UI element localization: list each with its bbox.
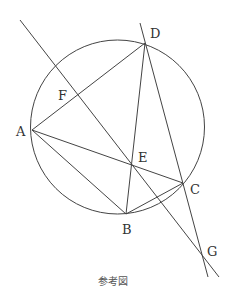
- line-through-F-E: [20, 20, 219, 277]
- label-B: B: [122, 222, 132, 237]
- segment-BC: [126, 183, 183, 214]
- label-D: D: [150, 26, 160, 41]
- segment-AC: [32, 130, 183, 183]
- segment-AB: [32, 130, 126, 214]
- geometry-figure: D F A E C B G 参考図: [0, 0, 235, 302]
- label-C: C: [190, 182, 200, 197]
- figure-caption: 参考図: [98, 275, 128, 287]
- label-G: G: [207, 244, 217, 259]
- segment-AD: [32, 43, 145, 130]
- circle: [31, 40, 205, 214]
- label-F: F: [58, 88, 67, 103]
- label-E: E: [138, 150, 148, 165]
- segment-DB: [126, 43, 145, 214]
- label-A: A: [15, 124, 26, 139]
